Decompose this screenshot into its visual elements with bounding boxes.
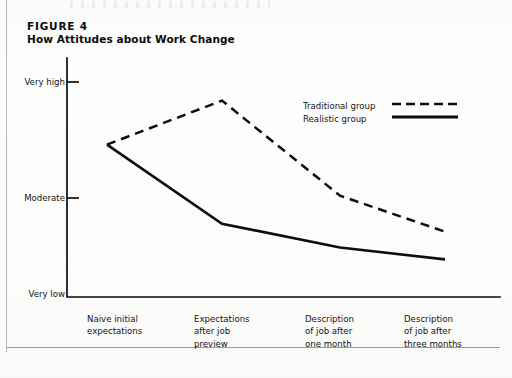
series-line-realistic-group: [107, 145, 445, 260]
chart-axes: [67, 58, 500, 297]
series-line-traditional-group: [107, 101, 445, 232]
chart-plot-area: [0, 0, 512, 378]
